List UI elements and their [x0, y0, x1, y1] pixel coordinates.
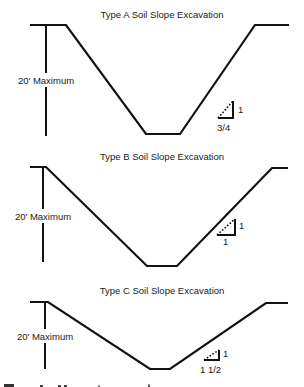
depth-label: 20' Maximum [18, 75, 74, 86]
slope-ratio-triangle-icon [218, 101, 233, 118]
panel-title: Type B Soil Slope Excavation [100, 151, 224, 162]
slope-rise-label: 1 [238, 104, 243, 115]
panel-type-a: Type A Soil Slope Excavation 20' Maximum… [18, 9, 289, 136]
slope-rise-label: 1 [223, 348, 228, 359]
slope-run-label: 1 1/2 [200, 364, 221, 375]
depth-label: 20' Maximum [15, 211, 71, 222]
panel-title: Type A Soil Slope Excavation [100, 9, 223, 20]
panel-type-b: Type B Soil Slope Excavation 20' Maximum… [15, 151, 288, 266]
slope-run-label: 3/4 [217, 122, 230, 133]
depth-label: 20' Maximum [17, 331, 73, 342]
soil-slope-diagram: Type A Soil Slope Excavation 20' Maximum… [0, 0, 304, 387]
slope-rise-label: 1 [239, 220, 244, 231]
panel-type-c: Type C Soil Slope Excavation 20' Maximum… [17, 285, 288, 375]
slope-ratio-triangle-icon [204, 350, 219, 360]
slope-run-label: 1 [223, 236, 228, 247]
panel-title: Type C Soil Slope Excavation [100, 285, 225, 296]
